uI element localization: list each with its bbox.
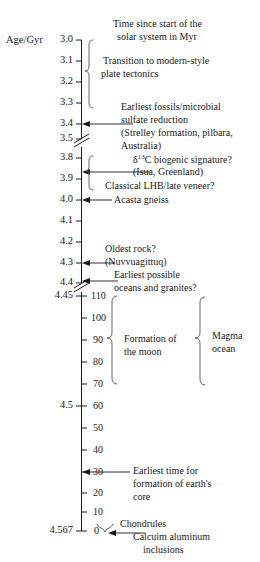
gyr-label-3-1: 3.1 <box>48 54 73 66</box>
gyr-label-4-567: 4.567 <box>34 524 73 536</box>
brace-chondrules <box>97 524 113 532</box>
annotation-core-line3: core <box>133 491 150 503</box>
myr-label-110: 110 <box>91 290 106 302</box>
d13c-text: C biogenic signature? <box>145 154 232 165</box>
gyr-label-4-5: 4.5 <box>48 399 73 411</box>
annotation-magma-line2: ocean <box>212 343 235 355</box>
myr-label-100: 100 <box>91 312 106 324</box>
annotation-oldest-rock-line1: Oldest rock? <box>105 243 156 255</box>
arrowhead-cai <box>108 530 116 536</box>
axis-graphics <box>0 0 260 562</box>
annotation-core-line2: formation of earth's <box>133 478 211 490</box>
myr-label-50: 50 <box>93 422 103 434</box>
brace-magma-ocean <box>195 297 205 385</box>
annotation-moon-line2: the moon <box>124 346 162 358</box>
annotation-magma-line1: Magma <box>212 330 243 342</box>
arrowhead-oldest-rock <box>82 260 90 266</box>
gyr-label-4-45: 4.45 <box>41 289 73 301</box>
annotation-oceans-line1: Earliest possible <box>114 269 180 281</box>
timeline-diagram: Age/Gyr Time since start of the solar sy… <box>0 0 260 562</box>
gyr-label-4-4: 4.4 <box>48 276 73 288</box>
annotation-oldest-rock-line2: (Nuvvuagittuq) <box>105 256 167 268</box>
brace-plate-tectonics <box>85 40 93 108</box>
annotation-oceans-line2: oceans and granites? <box>114 282 197 294</box>
myr-label-40: 40 <box>93 444 103 456</box>
gyr-label-4-3: 4.3 <box>48 256 73 268</box>
header-note-line1: Time since start of the <box>113 18 202 30</box>
gyr-label-3-5: 3.5 <box>48 132 73 144</box>
gyr-label-3-3: 3.3 <box>48 96 73 108</box>
annotation-chondrules: Chondrules <box>120 518 166 530</box>
arrowhead-fossils <box>82 121 90 127</box>
annotation-lhb: Classical LHB/late veneer? <box>105 180 214 192</box>
gyr-label-3-0: 3.0 <box>48 33 73 45</box>
annotation-core-line1: Earliest time for <box>133 465 198 477</box>
myr-label-30: 30 <box>93 466 103 478</box>
myr-label-20: 20 <box>93 487 103 499</box>
myr-label-60: 60 <box>93 400 103 412</box>
myr-label-80: 80 <box>93 356 103 368</box>
annotation-acasta: Acasta gneiss <box>114 194 169 206</box>
brace-moon <box>107 296 117 384</box>
gyr-label-3-2: 3.2 <box>48 75 73 87</box>
annotation-cai-line1: Calcuim aluminum <box>133 531 210 543</box>
arrowhead-acasta <box>82 197 90 203</box>
myr-label-70: 70 <box>93 378 103 390</box>
annotation-d13c: δ13C biogenic signature? <box>133 153 232 166</box>
arrowhead-core <box>82 469 90 475</box>
isotope-superscript: 13 <box>138 153 145 161</box>
annotation-fossils-line4: Australia) <box>121 140 161 152</box>
arrowhead-oceans <box>82 278 90 284</box>
gyr-label-3-4: 3.4 <box>48 117 73 129</box>
annotation-fossils-line1: Earliest fossils/microbial <box>121 101 221 113</box>
myr-label-0: 0 <box>94 525 99 537</box>
gyr-label-3-8: 3.8 <box>48 151 73 163</box>
annotation-fossils-line2: sulfate reduction <box>121 114 188 126</box>
annotation-fossils-line3: (Strelley formation, pilbara, <box>121 127 233 139</box>
gyr-label-3-9: 3.9 <box>48 172 73 184</box>
annotation-isua: (Isua, Greenland) <box>133 166 203 178</box>
annotation-cai-line2: inclusions <box>143 544 184 556</box>
gyr-label-4-1: 4.1 <box>48 214 73 226</box>
myr-label-10: 10 <box>93 506 103 518</box>
header-note-line2: solar system in Myr <box>117 31 197 43</box>
annotation-plate-tectonics-line1: Transition to modern-style <box>103 55 209 67</box>
gyr-label-4-2: 4.2 <box>48 235 73 247</box>
myr-label-90: 90 <box>93 334 103 346</box>
annotation-moon-line1: Formation of <box>124 333 177 345</box>
annotation-plate-tectonics-line2: plate tectonics <box>101 68 158 80</box>
gyr-label-4-0: 4.0 <box>48 193 73 205</box>
axis-title: Age/Gyr <box>6 34 43 46</box>
